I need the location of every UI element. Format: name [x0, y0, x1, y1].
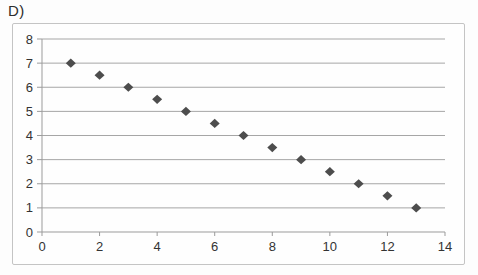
data-point-marker — [181, 107, 191, 116]
y-axis-tick-label: 7 — [26, 56, 33, 71]
y-axis-tick-label: 8 — [26, 32, 33, 47]
x-axis-tick-label: 0 — [38, 239, 45, 254]
data-point-marker — [296, 155, 306, 164]
data-point-marker — [239, 131, 249, 140]
y-axis-tick-label: 1 — [26, 200, 33, 215]
data-point-marker — [354, 179, 364, 188]
data-point-marker — [382, 191, 392, 200]
data-point-marker — [152, 95, 162, 104]
x-axis-tick-label: 10 — [323, 239, 337, 254]
y-axis-tick-label: 0 — [26, 225, 33, 240]
data-point-marker — [267, 143, 277, 152]
y-axis-tick-label: 6 — [26, 80, 33, 95]
y-axis-tick-label: 4 — [26, 128, 33, 143]
x-axis-tick-label: 8 — [269, 239, 276, 254]
y-axis-tick-label: 2 — [26, 176, 33, 191]
y-axis-tick-label: 3 — [26, 152, 33, 167]
x-axis-tick-label: 2 — [96, 239, 103, 254]
data-point-marker — [325, 167, 335, 176]
panel-label: D) — [8, 2, 25, 19]
x-axis-tick-label: 4 — [154, 239, 161, 254]
x-axis-tick-label: 14 — [438, 239, 452, 254]
chart-frame: 01234567802468101214 — [12, 23, 465, 265]
y-axis-tick-label: 5 — [26, 104, 33, 119]
data-point-marker — [210, 119, 220, 128]
x-axis-tick-label: 6 — [211, 239, 218, 254]
data-point-marker — [123, 83, 133, 92]
data-point-marker — [411, 203, 421, 212]
data-point-marker — [95, 71, 105, 80]
figure-page: D) 01234567802468101214 — [0, 0, 478, 275]
data-point-marker — [66, 59, 76, 68]
scatter-chart: 01234567802468101214 — [13, 24, 464, 264]
x-axis-tick-label: 12 — [380, 239, 394, 254]
